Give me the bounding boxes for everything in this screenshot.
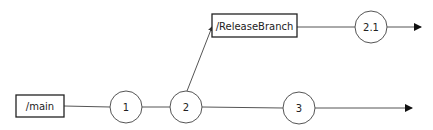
- version-node-2: 2: [170, 91, 202, 123]
- edge-2-to-3: [202, 107, 283, 108]
- branch-label-main: /main: [26, 101, 54, 112]
- version-label-1: 1: [123, 102, 129, 113]
- version-label-3: 3: [296, 103, 302, 114]
- version-node-2-1: 2.1: [355, 11, 387, 43]
- version-node-1: 1: [110, 91, 142, 123]
- branch-box-release: /ReleaseBranch: [212, 14, 297, 37]
- version-label-2: 2: [183, 102, 189, 113]
- version-label-2-1: 2.1: [363, 22, 379, 33]
- branch-label-release: /ReleaseBranch: [216, 21, 294, 32]
- edge-2-to-release-branch: [187, 27, 212, 91]
- version-node-3: 3: [283, 92, 315, 124]
- edge-main-to-1: [64, 106, 110, 107]
- branch-diagram: /main /ReleaseBranch 1 2 3 2.1: [0, 0, 433, 130]
- branch-box-main: /main: [16, 95, 64, 117]
